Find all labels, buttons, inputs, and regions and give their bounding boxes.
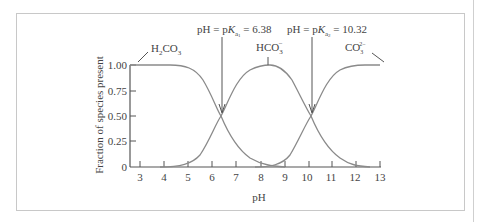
svg-text:12: 12 bbox=[350, 171, 361, 183]
pka2-arrow bbox=[309, 37, 315, 113]
svg-text:0.25: 0.25 bbox=[108, 135, 128, 147]
svg-text:6: 6 bbox=[209, 171, 215, 183]
h2co3-label: H2CO3 bbox=[151, 42, 182, 57]
curves bbox=[130, 65, 380, 167]
x-tick-labels: 3 4 5 6 7 8 9 10 11 12 13 bbox=[137, 171, 386, 183]
y-axis-label: Fraction of species present bbox=[93, 56, 105, 174]
svg-text:4: 4 bbox=[161, 171, 167, 183]
pka1-arrow bbox=[219, 37, 225, 113]
curve-co3 bbox=[255, 65, 380, 167]
svg-text:3: 3 bbox=[137, 171, 143, 183]
svg-text:10: 10 bbox=[302, 171, 314, 183]
co3-label: CO32− bbox=[345, 41, 366, 55]
curve-h2co3 bbox=[130, 65, 285, 167]
pka1-label: pH = pKa1 = 6.38 bbox=[197, 23, 272, 38]
svg-text:8: 8 bbox=[258, 171, 264, 183]
svg-text:9: 9 bbox=[282, 171, 288, 183]
h2co3-leader bbox=[138, 52, 148, 62]
curve-hco3 bbox=[160, 65, 370, 167]
species-fraction-chart: 1.00 0.75 0.50 0.25 0 3 4 5 6 7 8 9 10 1… bbox=[0, 0, 479, 222]
svg-text:0.75: 0.75 bbox=[108, 85, 128, 97]
svg-text:11: 11 bbox=[326, 171, 337, 183]
svg-text:1.00: 1.00 bbox=[108, 59, 128, 71]
svg-text:0: 0 bbox=[122, 161, 128, 173]
svg-text:5: 5 bbox=[185, 171, 191, 183]
svg-text:7: 7 bbox=[233, 171, 239, 183]
y-tick-labels: 1.00 0.75 0.50 0.25 0 bbox=[108, 59, 128, 173]
svg-text:13: 13 bbox=[375, 171, 387, 183]
y-ticks bbox=[130, 65, 136, 141]
pka2-label: pH = pKa2 = 10.32 bbox=[287, 23, 367, 38]
svg-text:0.50: 0.50 bbox=[108, 110, 128, 122]
x-axis-label: pH bbox=[252, 191, 266, 203]
hco3-label: HCO3− bbox=[256, 40, 283, 56]
co3-leader bbox=[372, 53, 384, 62]
